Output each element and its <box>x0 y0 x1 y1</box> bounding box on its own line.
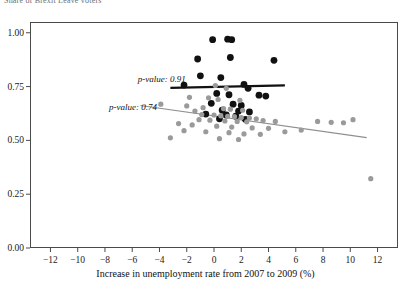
data-point-gray-group <box>181 128 186 133</box>
x-tick-label: 6 <box>285 255 307 265</box>
data-point-gray-group <box>241 131 246 136</box>
data-point-black-group <box>246 109 253 116</box>
data-point-gray-group <box>192 109 197 114</box>
data-point-gray-group <box>225 114 230 119</box>
data-point-gray-group <box>199 112 204 117</box>
data-point-gray-group <box>190 122 195 127</box>
x-tick-label: 2 <box>230 255 252 265</box>
data-point-black-group <box>213 90 220 97</box>
data-point-gray-group <box>260 118 265 123</box>
x-tick-label: 12 <box>367 255 389 265</box>
y-tick-label: 0.25 <box>0 189 24 199</box>
data-point-gray-group <box>207 118 212 123</box>
data-point-gray-group <box>236 137 241 142</box>
data-point-gray-group <box>214 124 219 129</box>
data-point-gray-group <box>266 126 271 131</box>
data-point-gray-group <box>232 114 237 119</box>
data-point-black-group <box>209 36 216 43</box>
x-tick-label: 4 <box>258 255 280 265</box>
data-point-gray-group <box>211 112 216 117</box>
data-point-gray-group <box>250 125 255 130</box>
annotation-black-pvalue: p-value: 0.91 <box>138 74 186 84</box>
data-point-gray-group <box>217 136 222 141</box>
data-point-gray-group <box>240 108 245 113</box>
annotation-gray-pvalue: p-value: 0.74 <box>109 102 157 112</box>
y-tick-label: 0.75 <box>0 82 24 92</box>
x-tick-label: −10 <box>67 255 89 265</box>
data-point-black-group <box>245 85 252 92</box>
data-point-gray-group <box>187 95 192 100</box>
data-point-black-group <box>194 56 201 63</box>
data-point-gray-group <box>299 127 304 132</box>
data-point-black-group <box>227 54 234 61</box>
data-point-black-group <box>271 57 278 64</box>
data-point-gray-group <box>229 124 234 129</box>
data-point-gray-group <box>350 117 355 122</box>
x-tick-label: 10 <box>339 255 361 265</box>
data-point-gray-group <box>315 119 320 124</box>
data-point-gray-group <box>221 106 226 111</box>
data-point-gray-group <box>176 121 181 126</box>
data-point-gray-group <box>258 132 263 137</box>
x-tick-label: −12 <box>39 255 61 265</box>
data-points <box>158 36 373 181</box>
data-point-gray-group <box>341 120 346 125</box>
data-point-gray-group <box>235 119 240 124</box>
data-point-gray-group <box>224 86 229 91</box>
axis-ticks <box>26 33 378 252</box>
data-point-gray-group <box>168 135 173 140</box>
data-point-gray-group <box>206 95 211 100</box>
data-point-gray-group <box>200 105 205 110</box>
data-point-gray-group <box>222 118 227 123</box>
data-point-gray-group <box>226 130 231 135</box>
y-tick-label: 0.00 <box>0 243 24 253</box>
data-point-black-group <box>262 93 269 100</box>
data-point-black-group <box>197 72 204 79</box>
plot-canvas <box>0 0 411 290</box>
x-tick-label: 8 <box>312 255 334 265</box>
data-point-gray-group <box>237 98 242 103</box>
data-point-black-group <box>256 92 263 99</box>
data-point-gray-group <box>368 176 373 181</box>
y-tick-label: 0.50 <box>0 135 24 145</box>
data-point-gray-group <box>203 129 208 134</box>
x-tick-label: −2 <box>176 255 198 265</box>
data-point-black-group <box>228 36 235 43</box>
y-tick-label: 1.00 <box>0 28 24 38</box>
x-tick-label: −8 <box>94 255 116 265</box>
data-point-gray-group <box>228 107 233 112</box>
data-point-gray-group <box>244 119 249 124</box>
data-point-gray-group <box>196 117 201 122</box>
data-point-gray-group <box>282 129 287 134</box>
data-point-gray-group <box>218 113 223 118</box>
data-point-gray-group <box>184 103 189 108</box>
data-point-gray-group <box>239 115 244 120</box>
x-tick-label: 0 <box>203 255 225 265</box>
data-point-gray-group <box>329 120 334 125</box>
data-point-black-group <box>217 74 224 81</box>
scatter-plot-figure: Share of Brexit Leave voters 0.000.250.5… <box>0 0 411 290</box>
data-point-gray-group <box>213 83 218 88</box>
data-point-gray-group <box>215 97 220 102</box>
data-point-black-group <box>226 91 233 98</box>
x-tick-label: −6 <box>121 255 143 265</box>
x-tick-label: −4 <box>148 255 170 265</box>
data-point-black-group <box>208 100 215 107</box>
data-point-gray-group <box>254 116 259 121</box>
data-point-gray-group <box>273 119 278 124</box>
x-axis-title: Increase in unemployment rate from 2007 … <box>0 268 411 279</box>
data-point-gray-group <box>158 102 163 107</box>
